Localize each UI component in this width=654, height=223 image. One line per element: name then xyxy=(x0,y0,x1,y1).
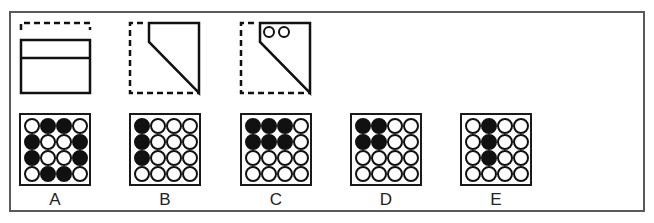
dot-grid xyxy=(24,118,86,181)
filled-dot-icon xyxy=(72,134,88,150)
empty-dot-icon xyxy=(497,118,513,134)
filled-dot-icon xyxy=(277,118,293,134)
filled-dot-icon xyxy=(371,134,387,150)
option-grid xyxy=(129,113,201,186)
question-figure-3 xyxy=(240,22,312,96)
puzzle-frame xyxy=(9,11,645,212)
empty-dot-icon xyxy=(261,166,277,182)
empty-dot-icon xyxy=(387,118,403,134)
option-grid xyxy=(19,113,91,186)
empty-dot-icon xyxy=(182,150,198,166)
option-label: E xyxy=(460,190,532,210)
empty-dot-icon xyxy=(150,166,166,182)
empty-dot-icon xyxy=(513,166,529,182)
filled-dot-icon xyxy=(481,150,497,166)
option-label: A xyxy=(19,190,91,210)
option-label: B xyxy=(129,190,201,210)
dot-grid xyxy=(245,118,307,181)
filled-dot-icon xyxy=(40,118,56,134)
empty-dot-icon xyxy=(245,166,261,182)
filled-dot-icon xyxy=(371,118,387,134)
empty-dot-icon xyxy=(513,134,529,150)
empty-dot-icon xyxy=(465,166,481,182)
empty-dot-icon xyxy=(24,118,40,134)
empty-dot-icon xyxy=(72,118,88,134)
filled-dot-icon xyxy=(24,150,40,166)
hole-icon xyxy=(264,27,274,37)
empty-dot-icon xyxy=(261,150,277,166)
fold-diagonal-diagram xyxy=(129,22,201,96)
filled-dot-icon xyxy=(134,134,150,150)
empty-dot-icon xyxy=(481,166,497,182)
empty-dot-icon xyxy=(56,134,72,150)
empty-dot-icon xyxy=(182,166,198,182)
fold-top-diagram xyxy=(20,22,92,96)
filled-dot-icon xyxy=(261,134,277,150)
question-figure-2 xyxy=(129,22,201,96)
filled-dot-icon xyxy=(245,118,261,134)
empty-dot-icon xyxy=(403,166,419,182)
filled-dot-icon xyxy=(245,134,261,150)
filled-dot-icon xyxy=(134,150,150,166)
filled-dot-icon xyxy=(72,150,88,166)
empty-dot-icon xyxy=(403,118,419,134)
empty-dot-icon xyxy=(134,166,150,182)
empty-dot-icon xyxy=(387,166,403,182)
option-grid xyxy=(350,113,422,186)
filled-dot-icon xyxy=(134,118,150,134)
filled-dot-icon xyxy=(355,118,371,134)
empty-dot-icon xyxy=(277,150,293,166)
empty-dot-icon xyxy=(293,134,309,150)
dot-grid xyxy=(355,118,417,181)
filled-dot-icon xyxy=(40,166,56,182)
empty-dot-icon xyxy=(387,150,403,166)
empty-dot-icon xyxy=(497,134,513,150)
empty-dot-icon xyxy=(371,150,387,166)
empty-dot-icon xyxy=(56,150,72,166)
empty-dot-icon xyxy=(465,134,481,150)
empty-dot-icon xyxy=(150,150,166,166)
empty-dot-icon xyxy=(277,166,293,182)
filled-dot-icon xyxy=(261,118,277,134)
empty-dot-icon xyxy=(150,134,166,150)
option-grid xyxy=(240,113,312,186)
filled-dot-icon xyxy=(481,118,497,134)
empty-dot-icon xyxy=(293,150,309,166)
filled-dot-icon xyxy=(277,134,293,150)
empty-dot-icon xyxy=(40,134,56,150)
empty-dot-icon xyxy=(182,118,198,134)
filled-dot-icon xyxy=(355,134,371,150)
empty-dot-icon xyxy=(72,166,88,182)
question-figure-1 xyxy=(20,22,92,96)
empty-dot-icon xyxy=(465,118,481,134)
dot-grid xyxy=(465,118,527,181)
empty-dot-icon xyxy=(403,150,419,166)
empty-dot-icon xyxy=(513,150,529,166)
filled-dot-icon xyxy=(24,134,40,150)
empty-dot-icon xyxy=(182,134,198,150)
empty-dot-icon xyxy=(40,150,56,166)
option-label: D xyxy=(350,190,422,210)
empty-dot-icon xyxy=(497,166,513,182)
dot-grid xyxy=(134,118,196,181)
empty-dot-icon xyxy=(293,118,309,134)
empty-dot-icon xyxy=(166,118,182,134)
empty-dot-icon xyxy=(24,166,40,182)
punched-holes-diagram xyxy=(240,22,312,96)
empty-dot-icon xyxy=(245,150,261,166)
empty-dot-icon xyxy=(497,150,513,166)
empty-dot-icon xyxy=(166,150,182,166)
empty-dot-icon xyxy=(403,134,419,150)
empty-dot-icon xyxy=(371,166,387,182)
empty-dot-icon xyxy=(387,134,403,150)
filled-dot-icon xyxy=(56,118,72,134)
empty-dot-icon xyxy=(166,134,182,150)
filled-dot-icon xyxy=(56,166,72,182)
empty-dot-icon xyxy=(166,166,182,182)
empty-dot-icon xyxy=(355,150,371,166)
empty-dot-icon xyxy=(355,166,371,182)
filled-dot-icon xyxy=(481,134,497,150)
empty-dot-icon xyxy=(513,118,529,134)
option-label: C xyxy=(240,190,312,210)
hole-icon xyxy=(279,27,289,37)
